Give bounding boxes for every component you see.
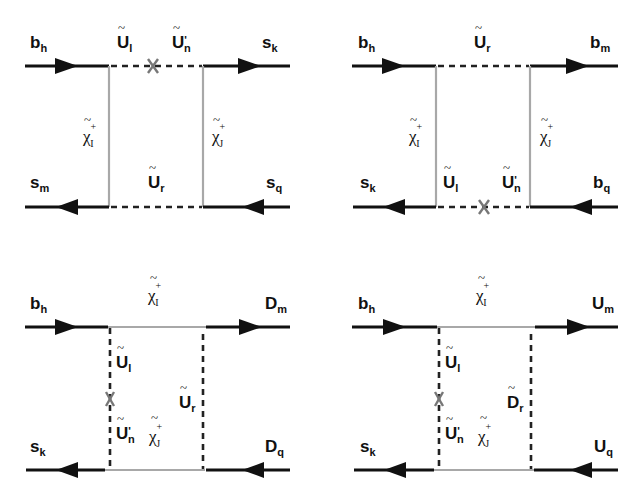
label-in-bottom: bq	[593, 173, 610, 194]
label-in-bottom: Uq	[594, 437, 613, 458]
arrow-left-icon	[56, 199, 78, 215]
arrow-left-icon	[56, 462, 78, 478]
arrow-left-icon	[242, 462, 264, 478]
label-squark-top-right: U'n	[172, 33, 191, 54]
diagram-bottom-left: bh Dm sk Dq ~ χ+I ~ χ+J ~ Ul ~ U'n ~ Ur	[25, 270, 290, 478]
label-squark-left-upper: Ul	[116, 353, 131, 374]
label-squark-bottom: Ur	[148, 173, 165, 194]
label-squark-bottom-right: U'n	[502, 173, 521, 194]
label-in-top: bh	[358, 294, 375, 315]
arrow-right-icon	[383, 319, 406, 335]
label-chargino-bottom: χ+J	[477, 421, 492, 449]
arrow-left-icon	[242, 199, 264, 215]
label-squark-top-left: Ul	[117, 33, 132, 54]
label-out-top: bm	[590, 33, 610, 54]
arrow-left-icon	[383, 199, 405, 215]
arrow-left-icon	[570, 199, 592, 215]
label-out-bottom: sk	[360, 437, 376, 458]
arrow-right-icon	[55, 58, 78, 74]
label-squark-bottom-left: Ul	[443, 173, 458, 194]
label-in-top: bh	[30, 33, 47, 54]
arrow-right-icon	[238, 58, 261, 74]
label-squark-right: Dr	[507, 393, 524, 414]
label-out-bottom: sk	[30, 437, 46, 458]
label-squark-left-upper: Ul	[445, 353, 460, 374]
arrow-right-icon	[566, 58, 589, 74]
label-out-bottom: sm	[30, 173, 49, 194]
arrow-left-icon	[570, 462, 592, 478]
feynman-diagrams-figure: bh sk sm sq ~ Ul ~ U'n ~ Ur ~ χ+I ~ χ+J …	[0, 0, 642, 503]
label-in-top: bh	[358, 33, 375, 54]
label-in-bottom: Dq	[265, 437, 284, 458]
label-out-top: Dm	[265, 294, 287, 315]
arrow-right-icon	[567, 319, 590, 335]
diagram-top-right: bh bm sk bq ~ Ur ~ Ul ~ U'n ~ χ+I ~ χ+J	[352, 20, 618, 215]
label-in-top: bh	[30, 294, 47, 315]
arrow-right-icon	[55, 319, 78, 335]
arrow-left-icon	[384, 462, 406, 478]
arrow-right-icon	[239, 319, 262, 335]
label-chargino-bottom: χ+J	[148, 421, 163, 449]
label-out-top: Um	[592, 294, 614, 315]
label-squark-top: Ur	[474, 33, 491, 54]
label-squark-left-lower: U'n	[116, 424, 135, 445]
label-out-top: sk	[262, 33, 278, 54]
label-squark-right: Ur	[179, 393, 196, 414]
arrow-right-icon	[382, 58, 405, 74]
label-squark-left-lower: U'n	[445, 424, 464, 445]
diagram-bottom-right: bh Um sk Uq ~ χ+I ~ χ+J ~ Ul ~ U'n ~ Dr	[352, 270, 618, 478]
label-out-bottom: sk	[360, 173, 376, 194]
label-in-bottom: sq	[266, 173, 282, 194]
diagram-top-left: bh sk sm sq ~ Ul ~ U'n ~ Ur ~ χ+I ~ χ+J	[25, 20, 290, 215]
